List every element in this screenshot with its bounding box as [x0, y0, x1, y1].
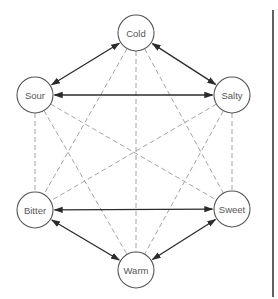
- nodes: ColdSourSaltyBitterSweetWarm: [17, 15, 250, 288]
- node-sweet: Sweet: [214, 191, 250, 227]
- dashed-edge-cold-bitter: [44, 49, 127, 195]
- node-cold: Cold: [118, 15, 154, 51]
- arrow-edge-cold-salty: [152, 44, 215, 85]
- solid-edges: [52, 43, 216, 260]
- node-bitter: Bitter: [17, 192, 53, 228]
- node-label-sweet: Sweet: [219, 204, 246, 215]
- node-label-bitter: Bitter: [24, 205, 46, 216]
- node-sour: Sour: [17, 77, 53, 113]
- dashed-edge-salty-warm: [145, 111, 224, 254]
- node-label-cold: Cold: [126, 28, 146, 39]
- dashed-edges: [35, 49, 232, 255]
- arrow-edge-sweet-warm: [152, 219, 215, 259]
- node-salty: Salty: [214, 77, 250, 113]
- taste-temperature-diagram: ColdSourSaltyBitterSweetWarm: [0, 0, 278, 299]
- arrow-edge-bitter-sweet: [54, 209, 212, 210]
- node-label-warm: Warm: [124, 265, 149, 276]
- node-label-salty: Salty: [221, 90, 242, 101]
- node-warm: Warm: [118, 252, 154, 288]
- dashed-edge-cold-sweet: [145, 49, 224, 193]
- arrow-edge-cold-sour: [52, 43, 120, 85]
- dashed-edge-sour-warm: [44, 111, 127, 255]
- arrow-edge-bitter-warm: [52, 220, 119, 260]
- node-label-sour: Sour: [25, 90, 45, 101]
